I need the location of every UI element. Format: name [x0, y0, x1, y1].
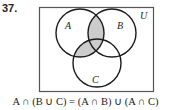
set-c-label: C: [92, 74, 99, 85]
set-a-label: A: [64, 20, 72, 31]
set-b-label: B: [117, 20, 123, 31]
shaded-region: [73, 9, 136, 87]
identity-caption: A ∩ (B ∪ C) = (A ∩ B) ∪ (A ∩ C): [0, 95, 171, 107]
venn-diagram: A B C U: [0, 0, 171, 110]
universe-label: U: [140, 10, 148, 21]
